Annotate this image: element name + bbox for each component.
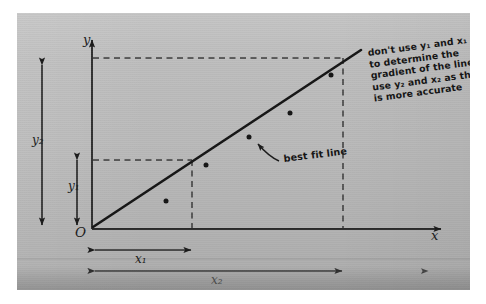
- x-axis-label: x: [431, 228, 438, 243]
- data-points: [164, 73, 334, 204]
- x2-measure-arrow-tip: [421, 268, 429, 274]
- y-axis-label: y: [83, 32, 90, 47]
- best-fit-line: [93, 50, 361, 227]
- horizontal-measure-arrows: [95, 250, 342, 271]
- data-point: [204, 163, 209, 168]
- x1-measure-label: x₁: [135, 252, 147, 266]
- data-point: [164, 199, 169, 204]
- y1-measure-label: y₁: [68, 179, 80, 193]
- data-point: [247, 135, 252, 140]
- x2-measure-label: x₂: [211, 273, 223, 287]
- best-fit-line-pointer: [258, 144, 279, 161]
- y2-measure-label: y₂: [32, 133, 44, 147]
- data-point: [288, 111, 293, 116]
- origin-label: O: [75, 224, 86, 240]
- photographed-page: y x O y₂ y₁ x₁ x₂ best fit line don't us…: [17, 13, 470, 290]
- vertical-measure-arrows: [42, 65, 77, 225]
- data-point: [329, 73, 334, 78]
- figure-image: y x O y₂ y₁ x₁ x₂ best fit line don't us…: [0, 0, 486, 304]
